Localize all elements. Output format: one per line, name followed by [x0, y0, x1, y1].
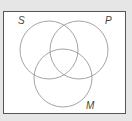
label-m: M — [86, 100, 94, 111]
label-p: P — [105, 15, 112, 26]
label-s: S — [18, 15, 25, 26]
circle-p — [50, 21, 108, 79]
